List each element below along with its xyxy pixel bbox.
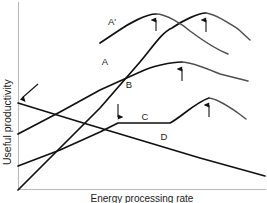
curve-label-a: A bbox=[102, 56, 109, 67]
curve-label-c: C bbox=[142, 111, 149, 122]
curve-label-d: D bbox=[161, 131, 168, 142]
annotation-arrows bbox=[22, 20, 209, 117]
chart-figure: A' A B C D Useful productivity Energy pr… bbox=[0, 0, 267, 203]
arrow-origin-d-icon bbox=[22, 84, 38, 98]
curve-label-b: B bbox=[126, 79, 132, 90]
curve-c-descent bbox=[209, 98, 246, 119]
curve-a-descent bbox=[206, 13, 250, 40]
x-axis-title: Energy processing rate bbox=[91, 193, 194, 203]
curve-a bbox=[18, 13, 250, 190]
curve-b-descent bbox=[182, 62, 248, 81]
chart-canvas: A' A B C D Useful productivity Energy pr… bbox=[0, 0, 267, 203]
curve-label-a-prime: A' bbox=[108, 16, 116, 27]
axis-frame bbox=[19, 2, 267, 190]
curve-a-prime-descent bbox=[156, 14, 228, 54]
y-axis-title: Useful productivity bbox=[1, 78, 13, 165]
curve-a-path bbox=[18, 13, 206, 190]
